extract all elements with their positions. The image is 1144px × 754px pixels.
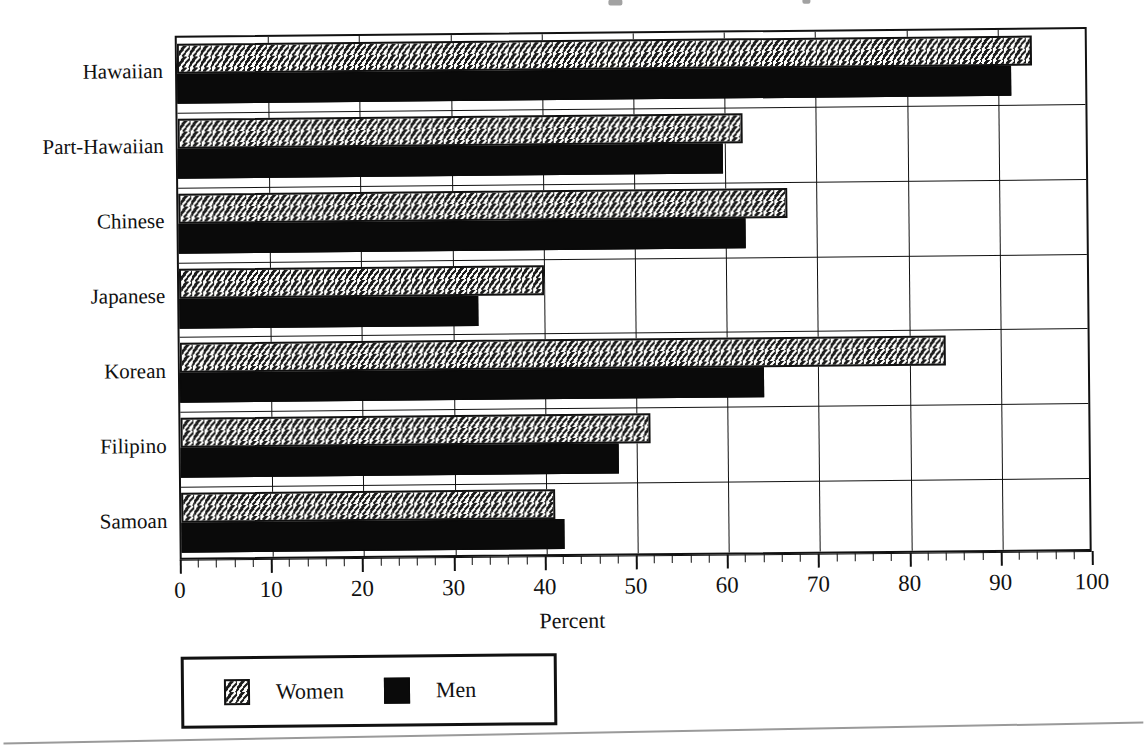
bar-men: [179, 295, 478, 328]
x-tick-label: 100: [1062, 569, 1122, 596]
plot-area: [175, 27, 1092, 560]
x-tick-minor: [198, 560, 199, 568]
x-tick-major: [636, 555, 638, 569]
x-tick-minor: [216, 559, 217, 567]
x-tick-major: [362, 558, 364, 572]
x-tick-minor: [873, 553, 874, 561]
category-label: Japanese: [90, 284, 165, 310]
x-tick-major: [1000, 552, 1002, 566]
x-tick-label: 70: [788, 571, 848, 598]
x-tick-minor: [1019, 552, 1020, 560]
x-tick-major: [180, 560, 182, 574]
x-tick-minor: [617, 556, 618, 564]
x-tick-minor: [672, 555, 673, 563]
x-tick-minor: [234, 559, 235, 567]
bar-women: [180, 336, 946, 373]
legend-item-women: Women: [224, 678, 344, 705]
x-tick-minor: [599, 556, 600, 564]
x-tick-major: [909, 553, 911, 567]
category-label: Filipino: [100, 434, 167, 460]
x-tick-minor: [982, 552, 983, 560]
bar-group: [177, 29, 1086, 113]
cropped-title-remnant: [802, 0, 810, 4]
x-tick-major: [1092, 551, 1094, 565]
x-tick-label: 30: [423, 575, 483, 602]
chart-figure: HawaiianPart-HawaiianChineseJapaneseKore…: [0, 0, 1144, 754]
legend: Women Men: [181, 653, 558, 729]
women-swatch-icon: [224, 679, 250, 705]
x-tick-minor: [1073, 551, 1074, 559]
page-bottom-rule: [3, 722, 1143, 745]
x-tick-minor: [654, 555, 655, 563]
bar-women: [179, 265, 544, 299]
legend-label-women: Women: [276, 678, 344, 705]
category-label: Samoan: [100, 508, 168, 534]
x-tick-major: [545, 556, 547, 570]
x-tick-minor: [964, 552, 965, 560]
category-label: Part-Hawaiian: [42, 134, 164, 160]
x-tick-minor: [253, 559, 254, 567]
x-tick-minor: [490, 557, 491, 565]
category-label: Hawaiian: [82, 59, 163, 85]
x-tick-minor: [581, 556, 582, 564]
bar-group: [179, 254, 1088, 338]
bar-group: [180, 403, 1089, 487]
bar-group: [180, 328, 1089, 412]
x-tick-minor: [435, 557, 436, 565]
bar-men: [178, 143, 724, 178]
x-tick-minor: [946, 552, 947, 560]
category-label: Chinese: [97, 209, 165, 235]
category-label: Korean: [104, 359, 166, 385]
x-tick-major: [271, 559, 273, 573]
cropped-title-remnant: [608, 0, 622, 6]
x-tick-minor: [800, 554, 801, 562]
men-swatch-icon: [384, 678, 410, 704]
x-tick-label: 20: [332, 576, 392, 603]
x-tick-label: 10: [241, 577, 301, 604]
x-tick-label: 0: [150, 577, 210, 604]
x-tick-minor: [928, 553, 929, 561]
legend-label-men: Men: [436, 677, 477, 703]
x-tick-minor: [508, 557, 509, 565]
x-tick-major: [818, 554, 820, 568]
x-tick-label: 50: [606, 573, 666, 600]
x-tick-minor: [745, 554, 746, 562]
x-tick-label: 60: [697, 572, 757, 599]
x-axis-title: Percent: [2, 603, 1142, 640]
x-tick-major: [453, 557, 455, 571]
x-tick-labels: 0102030405060708090100: [0, 0, 1136, 5]
bar-group: [181, 478, 1090, 562]
bar-men: [180, 368, 764, 404]
x-tick-minor: [782, 554, 783, 562]
bar-groups: [177, 29, 1085, 38]
bar-men: [181, 444, 619, 478]
x-tick-minor: [836, 553, 837, 561]
x-tick-label: 90: [971, 570, 1031, 597]
x-tick-minor: [690, 555, 691, 563]
bar-women: [180, 414, 650, 449]
x-tick-minor: [709, 555, 710, 563]
bar-men: [179, 218, 747, 253]
x-tick-minor: [1055, 551, 1056, 559]
x-tick-label: 40: [515, 574, 575, 601]
bar-men: [181, 519, 564, 553]
x-tick-minor: [1037, 552, 1038, 560]
x-tick-minor: [289, 559, 290, 567]
x-tick-minor: [344, 558, 345, 566]
x-tick-minor: [526, 556, 527, 564]
x-tick-minor: [417, 557, 418, 565]
x-tick-label: 80: [879, 570, 939, 597]
x-tick-minor: [399, 558, 400, 566]
bar-women: [181, 489, 555, 523]
x-tick-minor: [891, 553, 892, 561]
bar-group: [178, 179, 1087, 263]
x-tick-major: [727, 554, 729, 568]
x-tick-minor: [326, 558, 327, 566]
x-tick-minor: [763, 554, 764, 562]
x-tick-minor: [307, 559, 308, 567]
category-axis-labels: HawaiianPart-HawaiianChineseJapaneseKore…: [0, 0, 1136, 5]
x-tick-minor: [380, 558, 381, 566]
x-tick-minor: [472, 557, 473, 565]
bar-group: [177, 104, 1086, 188]
x-tick-minor: [563, 556, 564, 564]
